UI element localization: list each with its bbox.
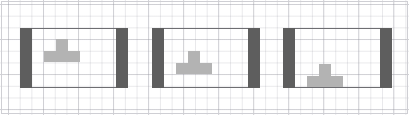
frame-3-left-wall: [283, 28, 295, 88]
frame-1-right-wall: [116, 28, 128, 88]
frame-3-piece-base: [307, 76, 343, 87]
frame-3-right-wall: [380, 28, 392, 88]
frame-1-piece-stem: [56, 39, 68, 51]
frame-3-piece-stem: [319, 64, 331, 76]
frame-2-right-wall: [248, 28, 260, 88]
frame-2-piece-base: [176, 63, 212, 74]
frame-2-piece-stem: [188, 51, 200, 63]
frame-2-floor-line: [152, 87, 260, 88]
frame-3-ceiling-line: [283, 28, 392, 29]
frame-3-floor-line: [283, 87, 392, 88]
frame-1-left-wall: [20, 28, 32, 88]
frame-1-ceiling-line: [20, 28, 128, 29]
frame-1-floor-line: [20, 87, 128, 88]
tetromino-fall-figure: [0, 0, 409, 115]
frame-1-piece-base: [44, 51, 80, 62]
frame-2-ceiling-line: [152, 28, 260, 29]
frame-2-left-wall: [152, 28, 164, 88]
